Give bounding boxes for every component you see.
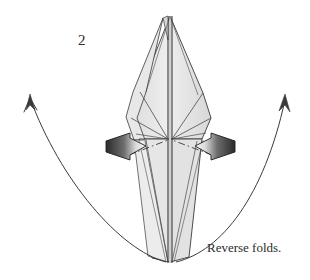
origami-diagram-canvas: [0, 0, 310, 280]
figure-caption: Reverse folds.: [207, 240, 281, 256]
upper-right-panel: [170, 16, 211, 139]
origami-model: [126, 16, 211, 263]
step-number: 2: [78, 32, 86, 49]
left-motion-arrowhead: [26, 94, 35, 110]
origami-diagram-figure: 2 Reverse folds.: [0, 0, 310, 280]
lower-right-body: [170, 139, 202, 262]
right-motion-arrowhead: [279, 94, 290, 112]
